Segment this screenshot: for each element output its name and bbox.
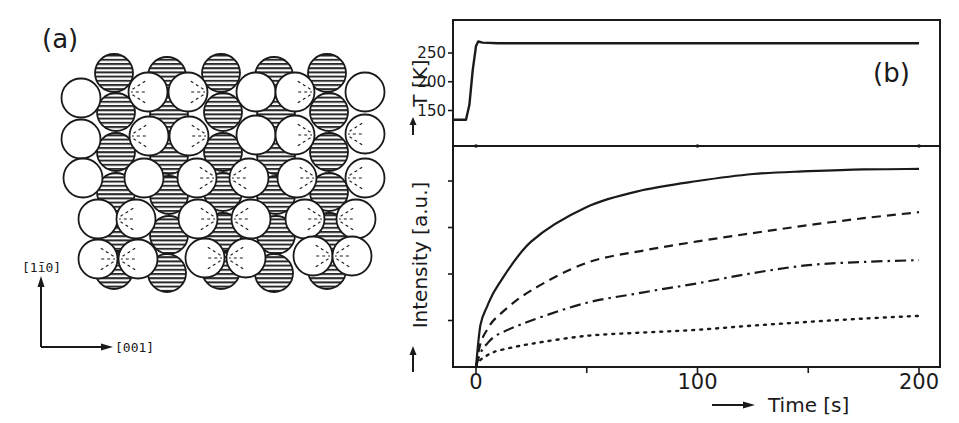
adsorbate-atom <box>227 239 266 278</box>
adsorbate-atom <box>346 115 385 154</box>
time-axis-label-text: Time [s] <box>767 393 849 417</box>
adsorbate-atom <box>179 200 218 239</box>
adsorbate-atom <box>276 73 315 112</box>
substrate-atom <box>95 54 133 92</box>
temperature-axis-arrow <box>410 117 417 135</box>
arrow-up-icon <box>410 346 417 355</box>
adsorbate-atom <box>346 159 385 198</box>
intensity-line-dashed <box>476 212 919 367</box>
adsorbate-atom <box>64 159 103 198</box>
adsorbate-atom <box>333 237 372 276</box>
intensity-series <box>476 169 919 367</box>
substrate-atom <box>310 93 348 131</box>
x-tick-label: 200 <box>899 370 939 394</box>
panel-b-chart: (b) 150200250 0100200 T [K] Intensity [a… <box>408 20 940 417</box>
time-x-ticks: 0100200 <box>469 367 939 394</box>
adsorbate-atom <box>169 73 208 112</box>
adsorbate-atom <box>117 200 156 239</box>
intensity-axis-arrow <box>410 346 417 372</box>
temperature-series <box>454 42 919 120</box>
adsorbate-atom <box>278 159 317 198</box>
panel-a-label: (a) <box>42 24 78 54</box>
divider-tick <box>474 144 478 148</box>
y-tick-label: 250 <box>417 44 446 62</box>
arrowhead-right-icon <box>101 344 113 351</box>
direction-label-vertical: [1ī0] <box>22 260 61 275</box>
adsorbate-atom <box>119 240 158 279</box>
adsorbate-atom <box>346 73 385 112</box>
figure: (a) [1ī0] [001] (b) 150200250 0100200 T … <box>0 0 959 423</box>
substrate-atom <box>202 54 240 92</box>
x-tick-label: 0 <box>469 370 482 394</box>
divider-tick <box>917 144 921 148</box>
adsorbate-atom <box>230 159 269 198</box>
adsorbate-atom <box>79 240 118 279</box>
adsorbate-atom <box>130 117 169 156</box>
x-tick-label: 100 <box>677 370 717 394</box>
intensity-line-dash-dot <box>476 260 919 367</box>
adsorbate-atom <box>125 159 164 198</box>
adsorbate-atom <box>286 200 325 239</box>
adsorbate-atom <box>237 73 276 112</box>
adsorbate-atom <box>337 200 376 239</box>
time-axis-label: Time [s] <box>712 393 849 417</box>
adsorbate-atom <box>62 120 101 159</box>
temperature-line <box>454 42 919 120</box>
intensity-axis-label-text: Intensity [a.u.] <box>408 182 432 329</box>
adsorbate-atom <box>237 116 276 155</box>
temperature-axis-label-text: T [K] <box>408 59 432 107</box>
adsorbate-atom <box>186 239 225 278</box>
adsorbate-atom <box>178 159 217 198</box>
temperature-axis-label: T [K] <box>408 59 432 107</box>
intensity-line-dotted <box>476 316 919 367</box>
direction-label-horizontal: [001] <box>115 340 154 355</box>
adsorbate-atom <box>62 79 101 118</box>
adsorbate-atom <box>294 237 333 276</box>
arrowhead-up-icon <box>38 276 45 287</box>
adsorbate-atom <box>276 116 315 155</box>
plot-frame <box>453 20 940 367</box>
panel-b-label: (b) <box>873 58 910 88</box>
adsorbate-atom <box>170 117 209 156</box>
adsorbate-atom <box>129 73 168 112</box>
panel-a-crystal-model: (a) [1ī0] [001] <box>22 24 385 355</box>
arrow-up-icon <box>410 117 417 125</box>
substrate-atom <box>204 93 242 131</box>
intensity-axis-label: Intensity [a.u.] <box>408 182 432 329</box>
intensity-line-solid <box>476 169 919 367</box>
adsorbate-atom <box>232 200 271 239</box>
divider-tick <box>696 144 700 148</box>
arrow-right-icon <box>743 402 755 409</box>
substrate-atom <box>310 133 348 171</box>
adsorbate-atom <box>79 200 118 239</box>
